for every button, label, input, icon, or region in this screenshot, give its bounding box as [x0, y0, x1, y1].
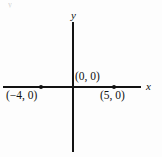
coordinate-plane-figure: y y x (0, 0) (−4, 0) (5, 0)	[0, 0, 162, 157]
y-axis-line	[72, 22, 74, 152]
x-axis-label: x	[146, 81, 151, 92]
point-label-minus4-0: (−4, 0)	[6, 89, 37, 102]
point-label-origin: (0, 0)	[75, 70, 100, 83]
y-axis-label: y	[71, 10, 76, 21]
scan-artifact: y	[8, 1, 22, 8]
point-label-5-0: (5, 0)	[100, 89, 125, 102]
plotted-point-minus4-0	[39, 85, 43, 89]
